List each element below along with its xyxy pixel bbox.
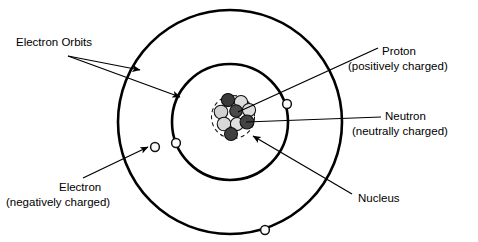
label-neutron-line1: Neutron [385, 110, 426, 122]
leader-electron-orbits-outer [68, 56, 140, 70]
label-neutron-line2: (neutrally charged) [352, 125, 448, 137]
label-nucleus: Nucleus [358, 192, 400, 204]
atomic-structure-diagram: Electron Orbits Electron (negatively cha… [0, 0, 478, 242]
nucleus-particle-cluster [214, 93, 255, 140]
label-proton-line2: (positively charged) [348, 60, 448, 72]
leader-electron-orbits-inner [68, 56, 180, 97]
neutron-sphere [221, 93, 234, 106]
leader-proton [238, 48, 378, 112]
neutron-sphere [225, 128, 238, 141]
electron-inner-left [172, 139, 181, 148]
leader-neutron [246, 117, 381, 122]
electron-outer-bottom [261, 226, 270, 235]
label-proton-line1: Proton [382, 45, 416, 57]
label-electron-line2: (negatively charged) [6, 196, 110, 208]
label-electron-orbits: Electron Orbits [16, 36, 92, 48]
leader-electron [83, 147, 148, 178]
atom-illustration: Electron Orbits Electron (negatively cha… [0, 0, 478, 242]
label-electron-line1: Electron [59, 181, 101, 193]
electron-inner-right [283, 100, 292, 109]
proton-sphere [214, 105, 228, 119]
electron-outer-left [151, 143, 160, 152]
